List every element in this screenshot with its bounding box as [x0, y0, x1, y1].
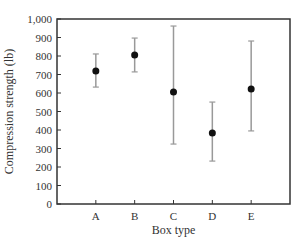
data-point-group-A — [92, 54, 99, 87]
y-tick-label: 500 — [36, 106, 53, 118]
data-point — [170, 89, 177, 96]
y-tick-label: 700 — [36, 69, 53, 81]
x-tick-label: E — [248, 210, 255, 222]
data-point-group-C — [170, 26, 177, 144]
data-point-group-D — [209, 102, 216, 161]
y-tick-label: 1,000 — [27, 13, 52, 25]
data-point — [92, 67, 99, 74]
x-tick-label: B — [131, 210, 138, 222]
chart: 01002003004005006007008009001,000 ABCDE … — [0, 0, 302, 248]
data-point-group-E — [248, 41, 255, 131]
y-tick-label: 800 — [36, 50, 53, 62]
y-axis: 01002003004005006007008009001,000 — [27, 13, 61, 210]
data-marks — [92, 26, 254, 161]
y-tick-label: 400 — [36, 124, 53, 136]
data-point — [131, 52, 138, 59]
y-tick-label: 900 — [36, 32, 53, 44]
y-tick-label: 300 — [36, 143, 53, 155]
x-axis-title: Box type — [152, 223, 196, 237]
x-tick-label: D — [208, 210, 216, 222]
data-point-group-B — [131, 38, 138, 72]
y-axis-title: Compression strength (lb) — [2, 49, 16, 174]
y-tick-label: 200 — [36, 161, 53, 173]
y-tick-label: 0 — [47, 198, 53, 210]
x-tick-label: A — [92, 210, 100, 222]
y-tick-label: 100 — [36, 180, 53, 192]
x-tick-label: C — [170, 210, 177, 222]
y-tick-label: 600 — [36, 87, 53, 99]
data-point — [209, 129, 216, 136]
data-point — [248, 85, 255, 92]
